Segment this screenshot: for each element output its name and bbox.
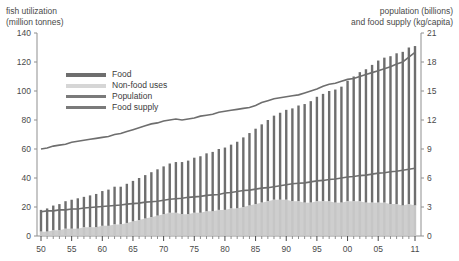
bar-food-segment (52, 206, 54, 231)
bar-food-segment (162, 166, 164, 214)
left-tick-label: 120 (17, 57, 31, 67)
bar-nonfood-segment (77, 229, 79, 236)
right-tick-label: 3 (427, 202, 432, 212)
bar-food-segment (389, 56, 391, 204)
bar-food-segment (322, 94, 324, 201)
x-tick-label: 90 (282, 244, 292, 254)
bar-nonfood-segment (126, 223, 128, 236)
legend-item[interactable]: Non-food uses (66, 80, 167, 91)
bar-food-segment (70, 200, 72, 229)
bar-food-segment (242, 137, 244, 207)
bar-nonfood-segment (297, 201, 299, 236)
right-tick-label: 9 (427, 144, 432, 154)
bar-nonfood-segment (107, 226, 109, 236)
bar-food-segment (352, 77, 354, 202)
bar-food-segment (181, 162, 183, 214)
bar-food-segment (101, 191, 103, 226)
bar-nonfood-segment (242, 207, 244, 236)
bar-nonfood-segment (169, 213, 171, 236)
legend-swatch-icon (66, 106, 106, 109)
bar-nonfood-segment (273, 200, 275, 236)
bar-food-segment (205, 153, 207, 211)
bar-nonfood-segment (316, 201, 318, 236)
x-tick-label: 50 (36, 244, 46, 254)
bar-food-segment (383, 58, 385, 203)
bar-food-segment (211, 152, 213, 211)
bar-nonfood-segment (414, 206, 416, 236)
bar-food-segment (107, 190, 109, 226)
bar-food-segment (83, 197, 85, 227)
bar-nonfood-segment (328, 201, 330, 236)
x-tick-label: 55 (67, 244, 77, 254)
bar-nonfood-segment (365, 203, 367, 236)
left-tick-label: 100 (17, 86, 31, 96)
chart-container: fish utilization (million tonnes) popula… (0, 0, 459, 261)
bar-food-segment (132, 181, 134, 222)
legend-item[interactable]: Food (66, 69, 167, 80)
bar-nonfood-segment (52, 230, 54, 236)
bar-food-segment (402, 52, 404, 206)
bar-food-segment (58, 204, 60, 230)
legend-swatch-icon (66, 73, 106, 77)
bar-nonfood-segment (113, 224, 115, 236)
bar-food-segment (340, 87, 342, 203)
bar-food-segment (64, 201, 66, 229)
bar-nonfood-segment (408, 204, 410, 236)
legend-item-label: Food supply (112, 102, 158, 113)
bar-nonfood-segment (70, 229, 72, 236)
bar-nonfood-segment (156, 216, 158, 236)
bar-food-segment (46, 208, 48, 231)
bar-nonfood-segment (402, 206, 404, 236)
bar-food-segment (365, 69, 367, 202)
bar-food-segment (303, 104, 305, 203)
right-tick-label: 15 (427, 86, 437, 96)
bar-food-segment (187, 161, 189, 215)
bar-nonfood-segment (230, 208, 232, 236)
legend-item-label: Food (112, 69, 131, 80)
bar-nonfood-segment (359, 201, 361, 236)
bar-food-segment (144, 175, 146, 219)
bar-food-segment (77, 198, 79, 228)
left-tick-label: 40 (22, 173, 32, 183)
right-tick-label: 6 (427, 173, 432, 183)
bar-nonfood-segment (322, 201, 324, 236)
bar-nonfood-segment (303, 203, 305, 236)
legend-item[interactable]: Population (66, 91, 167, 102)
bar-nonfood-segment (199, 213, 201, 236)
bar-nonfood-segment (224, 210, 226, 236)
bar-food-segment (230, 145, 232, 209)
bar-nonfood-segment (132, 222, 134, 237)
left-tick-label: 140 (17, 28, 31, 38)
x-tick-label: 75 (190, 244, 200, 254)
bar-food-segment (175, 162, 177, 213)
bar-food-segment (254, 129, 256, 204)
bar-food-segment (310, 101, 312, 202)
bar-nonfood-segment (193, 213, 195, 236)
bar-food-segment (359, 72, 361, 201)
chart-legend: FoodNon-food usesPopulationFood supply (66, 69, 167, 113)
bar-nonfood-segment (291, 201, 293, 236)
right-tick-label: 21 (427, 28, 437, 38)
bar-nonfood-segment (138, 220, 140, 236)
x-tick-label: 00 (343, 244, 353, 254)
bar-food-segment (267, 120, 269, 201)
x-tick-label: 95 (312, 244, 322, 254)
x-tick-label: 85 (251, 244, 261, 254)
bar-food-segment (150, 172, 152, 217)
bar-nonfood-segment (261, 203, 263, 236)
bar-nonfood-segment (279, 200, 281, 236)
bar-food-segment (414, 46, 416, 206)
legend-item[interactable]: Food supply (66, 102, 167, 113)
bar-nonfood-segment (340, 203, 342, 236)
bar-nonfood-segment (40, 232, 42, 236)
bar-food-segment (395, 53, 397, 204)
right-tick-label: 12 (427, 115, 437, 125)
bar-food-segment (156, 169, 158, 215)
bar-food-segment (218, 149, 220, 210)
left-tick-label: 0 (26, 231, 31, 241)
legend-item-label: Population (112, 91, 152, 102)
bar-nonfood-segment (377, 203, 379, 236)
bar-nonfood-segment (211, 211, 213, 236)
x-tick-label: 70 (159, 244, 169, 254)
bar-food-segment (334, 90, 336, 203)
